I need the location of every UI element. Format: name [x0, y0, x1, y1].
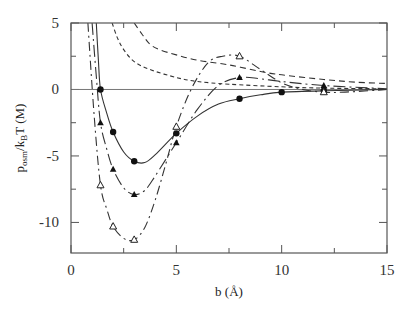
marker-filled-circle: [131, 158, 137, 164]
series-line-long-dash-dot-filled-triangles: [92, 23, 387, 195]
marker-open-triangle: [110, 223, 117, 229]
series-line-solid-filled-circles: [96, 23, 387, 163]
marker-filled-triangle: [97, 119, 104, 125]
marker-filled-triangle: [110, 166, 117, 172]
axis-ticks: [71, 23, 387, 253]
y-tick-label: 0: [52, 81, 60, 97]
y-tick-label: -5: [47, 148, 60, 164]
y-tick-label: 5: [52, 15, 60, 31]
chart: 05101550-5-10 b (Å) posm/kBT (M): [0, 0, 412, 318]
marker-open-triangle: [173, 123, 180, 129]
y-axis-label: posm/kBT (M): [12, 104, 29, 173]
marker-open-triangle: [97, 181, 104, 187]
marker-filled-circle: [110, 129, 116, 135]
marker-filled-circle: [173, 130, 179, 136]
series-line-upper-dashed: [134, 23, 387, 84]
marker-open-triangle: [131, 236, 138, 242]
x-tick-label: 10: [274, 262, 289, 278]
data-markers: [97, 52, 327, 242]
x-axis-label: b (Å): [215, 284, 243, 299]
x-tick-label: 15: [380, 262, 395, 278]
plot-frame: [71, 23, 387, 253]
marker-filled-circle: [278, 89, 284, 95]
x-tick-label: 5: [173, 262, 181, 278]
marker-filled-circle: [236, 96, 242, 102]
x-tick-label: 0: [67, 262, 75, 278]
y-tick-label: -10: [39, 214, 59, 230]
marker-filled-triangle: [173, 139, 180, 145]
tick-labels: 05101550-5-10: [39, 15, 395, 278]
marker-filled-circle: [97, 86, 103, 92]
series-line-lower-short-dash: [112, 23, 387, 89]
